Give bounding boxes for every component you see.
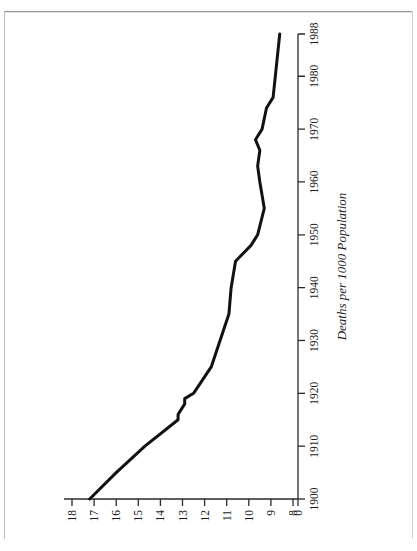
- x-axis-tick-label: 1900: [308, 487, 320, 510]
- axes: [64, 34, 298, 499]
- x-axis-ticks: [298, 34, 305, 499]
- y-axis-tick-label: 15: [132, 510, 144, 522]
- scanned-page: 1900191019201930194019501960197019801988…: [0, 0, 417, 551]
- y-axis-tick-labels: 181716151413121110980: [66, 510, 304, 522]
- rotated-figure: 1900191019201930194019501960197019801988…: [50, 17, 367, 534]
- x-axis-tick-label: 1960: [308, 170, 320, 193]
- y-axis-tick-label: 9: [265, 510, 277, 516]
- x-axis-tick-label: 1920: [308, 382, 320, 405]
- y-axis-tick-label: 14: [154, 510, 166, 522]
- y-axis-tick-label: 17: [88, 510, 100, 522]
- x-axis-tick-label: 1950: [308, 223, 320, 246]
- y-axis-tick-label: 12: [199, 510, 211, 522]
- y-axis-tick-label: 16: [110, 510, 122, 522]
- x-axis-tick-label: 1980: [308, 65, 320, 88]
- y-axis-ticks: [72, 499, 298, 506]
- data-line: [90, 34, 280, 499]
- y-axis-tick-label: 0: [292, 510, 304, 516]
- y-axis-tick-label: 11: [221, 510, 233, 521]
- x-axis-tick-label: 1910: [308, 434, 320, 457]
- chart-plot-area: 1900191019201930194019501960197019801988…: [50, 17, 367, 534]
- x-axis-tick-label: 1988: [308, 22, 320, 45]
- x-axis-tick-label: 1940: [308, 276, 320, 299]
- x-axis-tick-labels: 1900191019201930194019501960197019801988: [308, 22, 320, 510]
- x-axis-tick-label: 1970: [308, 117, 320, 140]
- y-axis-tick-label: 10: [243, 510, 255, 522]
- line-chart: 1900191019201930194019501960197019801988…: [50, 17, 367, 534]
- y-axis-tick-label: 18: [66, 510, 78, 522]
- x-axis-tick-label: 1930: [308, 329, 320, 352]
- value-axis-title: Deaths per 1000 Population: [334, 193, 349, 342]
- data-line-series: [90, 34, 280, 499]
- y-axis-tick-label: 13: [177, 510, 189, 522]
